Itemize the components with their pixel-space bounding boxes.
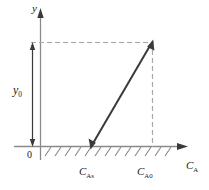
- cas-label: CAs: [79, 166, 94, 180]
- y-axis-label-text: y: [32, 2, 37, 14]
- ca0-label-sub: A0: [144, 172, 152, 179]
- origin-label: 0: [27, 150, 32, 160]
- plot-svg: [0, 0, 209, 190]
- y0-dimension-arrowhead-top: [30, 42, 35, 50]
- concentration-gradient-line: [92, 44, 151, 145]
- cas-label-sub: As: [86, 172, 94, 179]
- x-axis-label: CA: [186, 160, 198, 174]
- x-axis-arrowhead: [177, 143, 188, 150]
- y-axis-label: y: [32, 3, 37, 14]
- origin-label-text: 0: [27, 149, 32, 160]
- x-axis-label-sub: A: [193, 166, 198, 173]
- y0-dimension-arrowhead-bottom: [30, 139, 35, 147]
- y0-label: y0: [13, 84, 22, 99]
- figure-canvas: y y0 0 CAs CA0 CA: [0, 0, 209, 190]
- ca0-label: CA0: [137, 166, 153, 180]
- wall-hatch-group: [45, 147, 171, 156]
- y-axis-arrowhead: [37, 8, 43, 18]
- y0-label-sub: 0: [18, 90, 22, 99]
